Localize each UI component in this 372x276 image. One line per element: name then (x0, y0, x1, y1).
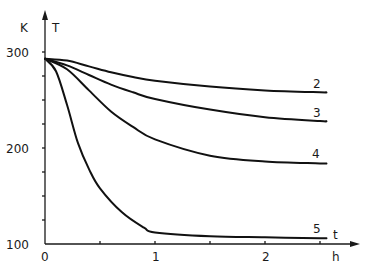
curve-label-2: 2 (313, 77, 321, 91)
y-unit-label: K (20, 21, 29, 35)
y-tick-label-100: 100 (6, 238, 29, 252)
curve-label-3: 3 (313, 106, 321, 120)
x-tick-label-0: 0 (41, 250, 49, 264)
x-tick-label-2: 2 (262, 250, 270, 264)
curve-label-5: 5 (313, 222, 321, 236)
x-unit-label: h (332, 250, 340, 264)
x-axis-symbol: t (333, 228, 338, 242)
x-axis (45, 241, 360, 247)
curve-label-4: 4 (312, 147, 320, 161)
y-axis (42, 10, 48, 244)
curve-5 (45, 59, 326, 239)
y-tick-label-300: 300 (6, 46, 29, 60)
y-axis-symbol: T (51, 21, 60, 35)
x-tick-label-1: 1 (152, 250, 160, 264)
y-tick-label-200: 200 (6, 142, 29, 156)
curves (45, 59, 326, 239)
temperature-time-chart: K T 300 200 100 0 1 2 t h 2 3 4 5 (0, 0, 372, 276)
